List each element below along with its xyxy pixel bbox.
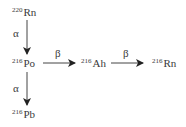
edge-label-beta-2: β bbox=[123, 48, 129, 59]
element-symbol: Pb bbox=[24, 108, 36, 120]
mass-number: 216 bbox=[12, 108, 23, 116]
edge-label-alpha-2: α bbox=[13, 83, 19, 94]
mass-number: 216 bbox=[12, 57, 23, 65]
element-symbol: Rn bbox=[164, 57, 177, 69]
element-symbol: Ah bbox=[93, 57, 106, 69]
node-pb216: 216Pb bbox=[12, 109, 35, 120]
mass-number: 216 bbox=[152, 57, 163, 65]
node-rn220: 220Rn bbox=[12, 7, 36, 18]
edge-label-beta-1: β bbox=[55, 48, 61, 59]
mass-number: 216 bbox=[81, 57, 92, 65]
node-po216: 216Po bbox=[12, 58, 35, 69]
mass-number: 220 bbox=[12, 6, 23, 14]
element-symbol: Po bbox=[24, 57, 36, 69]
edge-label-alpha-1: α bbox=[13, 28, 19, 39]
element-symbol: Rn bbox=[24, 6, 37, 18]
node-ah216: 216Ah bbox=[81, 58, 106, 69]
node-rn216: 216Rn bbox=[152, 58, 176, 69]
